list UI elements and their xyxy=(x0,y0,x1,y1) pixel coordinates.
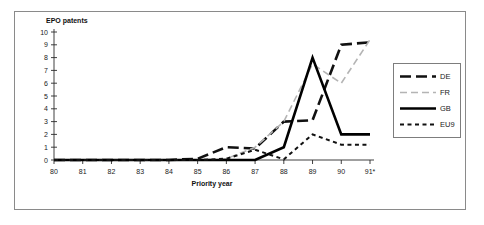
x-tick-label: 88 xyxy=(280,168,288,175)
y-tick-label: 7 xyxy=(44,67,48,74)
series-line-eu9 xyxy=(54,134,370,160)
x-tick-label: 84 xyxy=(165,168,173,175)
y-tick-label: 5 xyxy=(44,93,48,100)
legend-swatch-eu9-icon xyxy=(399,120,437,129)
legend-label: DE xyxy=(440,72,450,81)
legend-item-gb[interactable]: GB xyxy=(399,103,459,114)
legend-label: GB xyxy=(440,104,451,113)
data-series-group xyxy=(54,40,370,160)
x-axis: 808182838485868788899091* xyxy=(50,160,375,175)
y-axis: 012345678910 xyxy=(40,29,57,164)
series-line-de xyxy=(54,42,370,160)
y-axis-title: EPO patents xyxy=(46,17,88,25)
y-tick-label: 0 xyxy=(44,157,48,164)
y-tick-label: 8 xyxy=(44,54,48,61)
chart-legend: DEFRGBEU9 xyxy=(393,63,461,138)
x-tick-label: 89 xyxy=(309,168,317,175)
x-tick-label: 83 xyxy=(136,168,144,175)
x-axis-title: Priority year xyxy=(192,180,233,188)
x-tick-label: 80 xyxy=(50,168,58,175)
series-line-gb xyxy=(54,58,370,160)
x-tick-label: 85 xyxy=(194,168,202,175)
legend-item-de[interactable]: DE xyxy=(399,71,459,82)
legend-swatch-gb-icon xyxy=(399,104,437,113)
legend-swatch-de-icon xyxy=(399,72,437,81)
x-tick-label: 86 xyxy=(222,168,230,175)
legend-swatch-fr-icon xyxy=(399,88,437,97)
legend-label: FR xyxy=(440,88,450,97)
x-tick-label: 81 xyxy=(79,168,87,175)
legend-item-eu9[interactable]: EU9 xyxy=(399,119,459,130)
y-tick-label: 10 xyxy=(40,29,48,36)
legend-label: EU9 xyxy=(440,120,455,129)
y-tick-label: 2 xyxy=(44,131,48,138)
y-tick-label: 6 xyxy=(44,80,48,87)
x-tick-label: 87 xyxy=(251,168,259,175)
x-tick-label: 90 xyxy=(337,168,345,175)
y-tick-label: 4 xyxy=(44,105,48,112)
y-tick-label: 1 xyxy=(44,144,48,151)
x-tick-label: 91* xyxy=(365,168,376,175)
legend-item-fr[interactable]: FR xyxy=(399,87,459,98)
y-tick-label: 3 xyxy=(44,118,48,125)
series-line-fr xyxy=(54,40,370,160)
x-tick-label: 82 xyxy=(108,168,116,175)
y-tick-label: 9 xyxy=(44,41,48,48)
